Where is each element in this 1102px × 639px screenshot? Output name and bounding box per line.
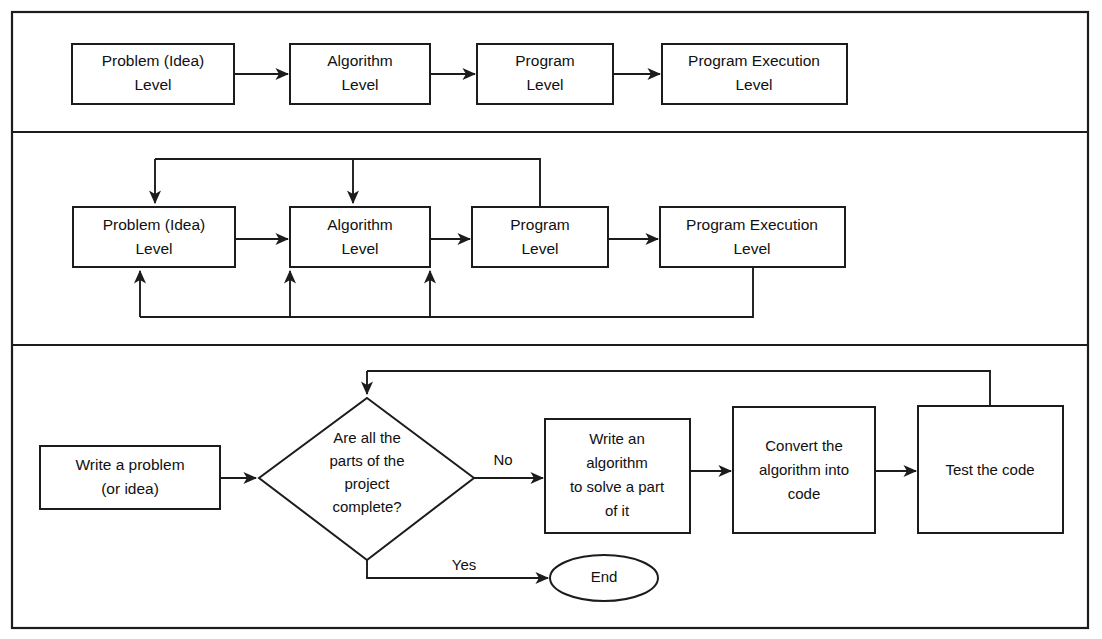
node-program-execution-level-line1: Program Execution [688,52,820,69]
node-write-algorithm-line3: to solve a part [570,478,665,495]
edge-label-no: No [493,451,512,468]
node-convert-code-line2: algorithm into [759,461,849,478]
node-decision-line3: project [344,475,390,492]
node-problem-level-line2: Level [134,76,171,93]
node-decision-line4: complete? [332,498,401,515]
node-program-execution-level-loop-line1: Program Execution [686,216,818,233]
node-problem-level-loop-line1: Problem (Idea) [103,216,206,233]
panel-middle: Problem (Idea) Level Algorithm Level Pro… [73,159,845,317]
node-decision-line1: Are all the [333,429,401,446]
node-problem-level-loop-line2: Level [135,240,172,257]
node-convert-code-line1: Convert the [765,437,843,454]
node-convert-code-line3: code [788,485,821,502]
node-write-algorithm-line1: Write an [589,430,645,447]
panel-bottom: Write a problem (or idea) Are all the pa… [40,371,1063,601]
node-program-level-line1: Program [515,52,574,69]
node-program-level-loop-line2: Level [521,240,558,257]
feedback-bottom-bar [140,267,753,317]
node-algorithm-level-line1: Algorithm [327,52,392,69]
diagram-canvas: Problem (Idea) Level Algorithm Level Pro… [0,0,1102,639]
flow-loop-back [367,371,990,406]
node-program-level-loop-line1: Program [510,216,569,233]
node-algorithm-level-loop-line2: Level [341,240,378,257]
node-write-problem-line2: (or idea) [101,480,159,497]
node-end-label: End [591,568,618,585]
node-program-level-line2: Level [526,76,563,93]
diagram-figure: Problem (Idea) Level Algorithm Level Pro… [0,0,1102,639]
node-write-problem-line1: Write a problem [75,456,184,473]
node-write-algorithm-line2: algorithm [586,454,648,471]
node-test-code-line1: Test the code [945,461,1034,478]
node-algorithm-level-loop-line1: Algorithm [327,216,392,233]
node-write-algorithm-line4: of it [605,502,630,519]
node-program-execution-level-line2: Level [735,76,772,93]
node-program-execution-level-loop-line2: Level [733,240,770,257]
feedback-top-bar [155,159,540,207]
node-decision-line2: parts of the [329,452,404,469]
edge-label-yes: Yes [452,556,476,573]
node-algorithm-level-line2: Level [341,76,378,93]
node-problem-level-line1: Problem (Idea) [102,52,205,69]
panel-top: Problem (Idea) Level Algorithm Level Pro… [72,44,847,104]
